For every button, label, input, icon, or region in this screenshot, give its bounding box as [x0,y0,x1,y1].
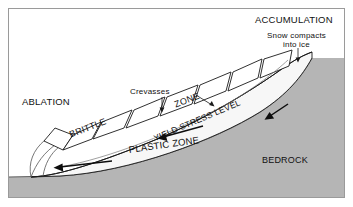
label-bedrock: BEDROCK [262,155,308,165]
label-snow-compacts-line2: into ice [283,40,310,49]
figure-canvas: ACCUMULATION Snow compacts into ice ABLA… [0,0,353,207]
label-accumulation: ACCUMULATION [255,14,333,25]
label-snow-compacts-line1: Snow compacts [267,31,326,40]
label-crevasses: Crevasses [130,87,170,96]
label-ablation: ABLATION [22,96,70,107]
